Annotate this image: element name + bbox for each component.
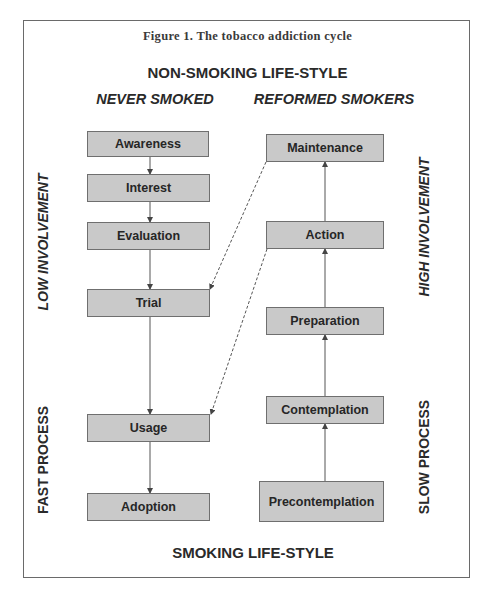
stage-preparation: Preparation bbox=[266, 307, 384, 335]
never-smoked-heading: NEVER SMOKED bbox=[96, 91, 214, 107]
stage-interest: Interest bbox=[87, 174, 210, 202]
stage-usage: Usage bbox=[87, 414, 210, 442]
stage-awareness: Awareness bbox=[87, 131, 209, 157]
stage-adoption: Adoption bbox=[87, 493, 210, 521]
stage-action: Action bbox=[266, 221, 384, 249]
low-involvement-label: LOW INVOLVEMENT bbox=[35, 174, 51, 311]
stage-contemplation: Contemplation bbox=[266, 396, 384, 424]
stage-trial: Trial bbox=[87, 289, 210, 317]
high-involvement-label: HIGH INVOLVEMENT bbox=[416, 157, 432, 296]
slow-process-label: SLOW PROCESS bbox=[416, 400, 432, 514]
reformed-smokers-heading: REFORMED SMOKERS bbox=[254, 91, 414, 107]
smoking-lifestyle-label: SMOKING LIFE-STYLE bbox=[0, 544, 495, 561]
fast-process-label: FAST PROCESS bbox=[35, 406, 51, 514]
figure-title: Figure 1. The tobacco addiction cycle bbox=[0, 29, 495, 44]
stage-precontemplation: Precontemplation bbox=[259, 481, 384, 522]
stage-maintenance: Maintenance bbox=[266, 134, 384, 162]
stage-evaluation: Evaluation bbox=[87, 222, 210, 250]
non-smoking-lifestyle-label: NON-SMOKING LIFE-STYLE bbox=[0, 64, 495, 81]
